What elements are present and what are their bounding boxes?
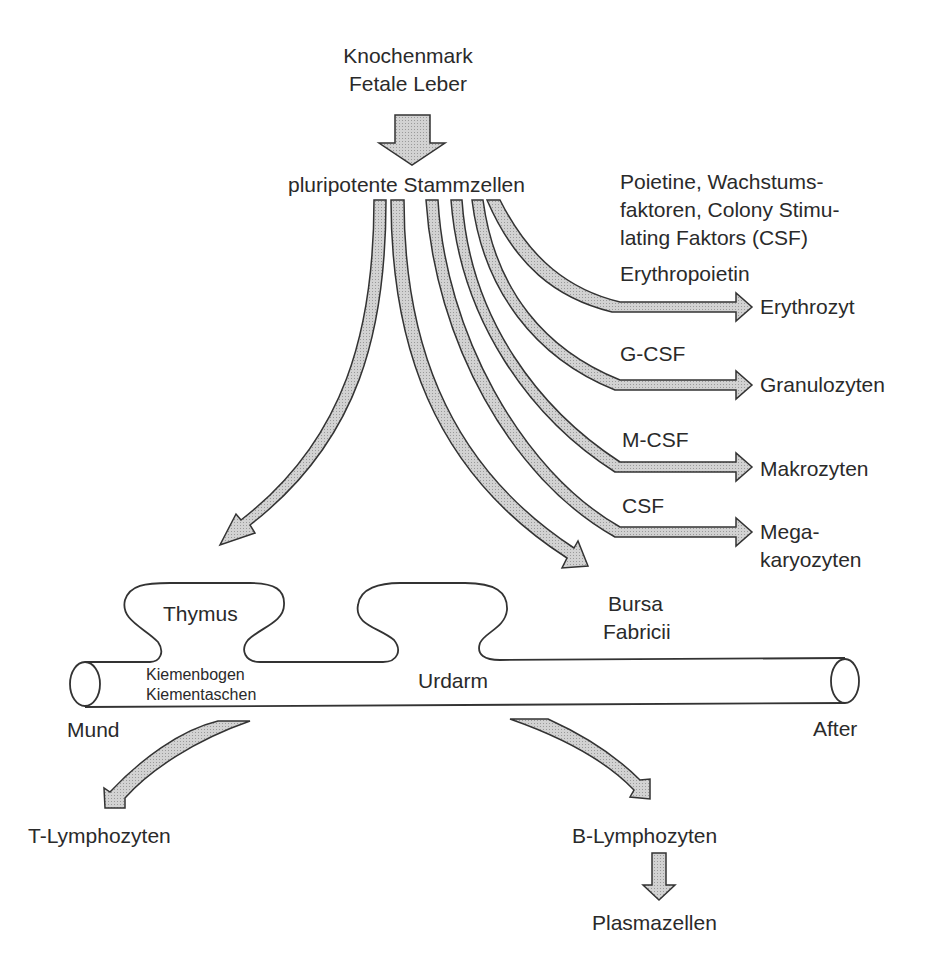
stem-to-thymus-arrow: [220, 200, 386, 545]
gill-arches-label: Kiemenbogen: [146, 665, 245, 685]
factor-erythropoietin: Erythropoietin: [620, 260, 750, 288]
target-megakaryozyten-line2: karyozyten: [760, 546, 862, 574]
mouth-opening: [70, 662, 100, 706]
gill-pouches-label: Kiementaschen: [146, 685, 256, 705]
factor-m-csf: M-CSF: [622, 426, 689, 454]
anus-label: After: [813, 715, 857, 743]
bursa-label-line1: Bursa: [608, 590, 663, 618]
thymus-to-t-cells-arrow: [104, 721, 250, 808]
factor-g-csf: G-CSF: [620, 340, 685, 368]
target-granulozyten: Granulozyten: [760, 371, 885, 399]
stem-cells-label: pluripotente Stammzellen: [288, 171, 525, 199]
plasma-cells-label: Plasmazellen: [592, 909, 717, 937]
target-megakaryozyten-line1: Mega-: [760, 518, 820, 546]
source-label-fetal-liver: Fetale Leber: [318, 70, 498, 98]
factor-csf: CSF: [622, 492, 664, 520]
b-cells-to-plasma-arrow: [643, 853, 675, 900]
anus-opening: [831, 659, 859, 703]
factors-header-line3: lating Faktors (CSF): [620, 224, 808, 252]
target-erythrozyt: Erythrozyt: [760, 293, 855, 321]
factors-header-line1: Poietine, Wachstums-: [620, 168, 823, 196]
thymus-label: Thymus: [163, 600, 238, 628]
t-lymphocytes-label: T-Lymphozyten: [28, 822, 171, 850]
source-to-stem-arrow: [379, 115, 445, 165]
factors-header-line2: faktoren, Colony Stimu-: [620, 196, 839, 224]
source-label-bone-marrow: Knochenmark: [318, 42, 498, 70]
b-lymphocytes-label: B-Lymphozyten: [572, 822, 717, 850]
bursa-label-line2: Fabricii: [603, 618, 671, 646]
bursa-to-b-cells-arrow: [510, 719, 650, 799]
target-makrozyten: Makrozyten: [760, 455, 869, 483]
mouth-label: Mund: [67, 716, 120, 744]
gut-label: Urdarm: [418, 667, 488, 695]
